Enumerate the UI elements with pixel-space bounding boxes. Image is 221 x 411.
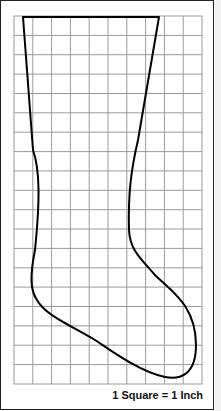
grid <box>14 16 202 384</box>
stocking-outline <box>23 17 196 378</box>
scale-caption: 1 Square = 1 Inch <box>112 389 203 401</box>
stocking-pattern-diagram <box>0 0 221 411</box>
